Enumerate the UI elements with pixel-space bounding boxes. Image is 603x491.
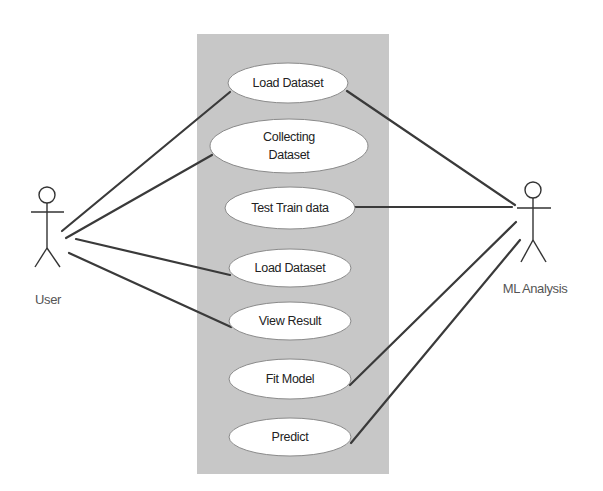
use-case-load-dataset-2[interactable]: Load Dataset	[229, 249, 351, 287]
use-case-collecting-dataset[interactable]: Collecting Dataset	[210, 119, 368, 173]
use-case-label: Predict	[272, 430, 310, 444]
use-case-view-result[interactable]: View Result	[229, 302, 351, 340]
use-case-label: Load Dataset	[253, 76, 325, 90]
actor-ml-analysis[interactable]: ML Analysis	[503, 182, 568, 296]
actor-user[interactable]: User	[31, 187, 64, 307]
stick-figure-icon	[517, 182, 551, 262]
use-case-label-line-2: Dataset	[269, 148, 311, 162]
use-case-predict[interactable]: Predict	[229, 418, 351, 456]
use-case-diagram: Load Dataset Collecting Dataset Test Tra…	[0, 0, 603, 491]
use-case-label: View Result	[259, 314, 322, 328]
use-case-label: Fit Model	[266, 372, 315, 386]
actor-label-ml-analysis: ML Analysis	[503, 281, 568, 296]
use-case-test-train-data[interactable]: Test Train data	[225, 187, 355, 229]
stick-figure-icon	[31, 187, 64, 267]
use-case-fit-model[interactable]: Fit Model	[229, 359, 351, 399]
use-case-label: Test Train data	[251, 201, 329, 215]
use-case-label: Load Dataset	[255, 261, 327, 275]
actor-label-user: User	[35, 292, 62, 307]
use-case-label-line-1: Collecting	[263, 130, 315, 144]
use-case-load-dataset-1[interactable]: Load Dataset	[228, 63, 348, 103]
